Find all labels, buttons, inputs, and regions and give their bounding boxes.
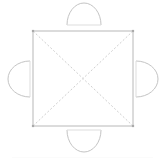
vertex-marker-bottom-right — [132, 125, 134, 127]
vertex-marker-top-left — [32, 30, 34, 32]
semicircle-top — [67, 3, 101, 25]
vertex-marker-bottom-left — [32, 125, 34, 127]
diagram-canvas — [0, 0, 165, 163]
square-pyramid-net-svg — [0, 0, 165, 163]
faint-baseline-artifact — [12, 157, 153, 158]
semicircle-right — [136, 61, 158, 97]
vertex-marker-top-right — [132, 30, 134, 32]
semicircle-left — [8, 61, 30, 97]
semicircle-bottom — [67, 130, 101, 152]
